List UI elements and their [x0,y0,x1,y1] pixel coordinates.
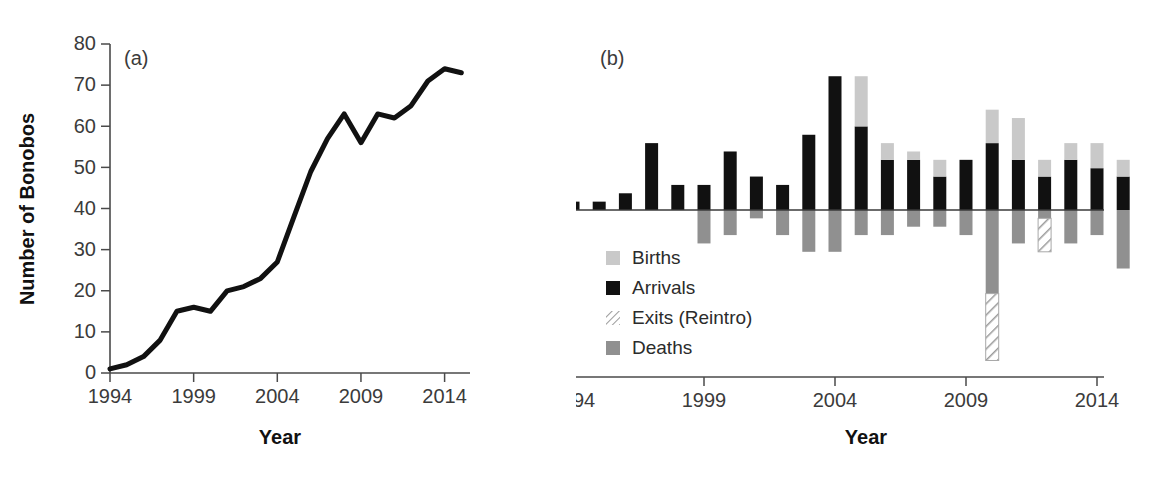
panel-a-y-ticks: 01020304050607080 [74,32,110,383]
bar-segment-deaths [750,210,763,218]
bar-segment-arrivals [986,143,999,210]
bar-segment-arrivals [576,202,580,210]
legend-label-exits: Exits (Reintro) [632,307,752,328]
legend-label-arrivals: Arrivals [632,277,695,298]
bar-segment-arrivals [776,185,789,210]
panel-a-line-chart: (a) Number of Bonobos Year 0102030405060… [0,0,576,477]
bar-segment-births [933,160,946,177]
bar-segment-arrivals [960,160,973,210]
panel-b-x-tick-label: 1999 [682,389,727,411]
bar-segment-deaths [855,210,868,235]
panel-a-svg: (a) Number of Bonobos Year 0102030405060… [0,0,576,477]
bar-segment-deaths [1064,210,1077,243]
bar-segment-deaths [776,210,789,235]
bar-segment-births [986,110,999,143]
bar-segment-arrivals [1091,168,1104,210]
bar-segment-arrivals [1012,160,1025,210]
bar-segment-arrivals [593,202,606,210]
bar-segment-deaths [829,210,842,252]
bar-segment-exits-reintro [1038,218,1051,251]
panel-a-y-axis-title: Number of Bonobos [16,113,38,305]
panel-a-y-tick-label: 30 [74,238,96,260]
panel-a-x-tick-label: 2014 [422,385,467,407]
panel-b-legend: BirthsArrivalsExits (Reintro)Deaths [606,247,752,358]
bar-segment-births [1064,143,1077,160]
bar-segment-arrivals [933,177,946,210]
bar-segment-arrivals [645,143,658,210]
bar-segment-exits-reintro [986,294,999,361]
bar-segment-births [1117,160,1130,177]
bar-segment-births [907,151,920,159]
panel-b-svg: (b) Number of Events Year 20151050−5−10−… [576,0,1152,477]
panel-a-y-tick-label: 50 [74,156,96,178]
bar-segment-arrivals [1038,177,1051,210]
panel-b-x-tick-label: 2009 [944,389,989,411]
panel-a-y-tick-label: 80 [74,32,96,54]
panel-a-x-ticks: 19941999200420092014 [88,373,467,407]
legend-label-deaths: Deaths [632,337,692,358]
bar-segment-arrivals [750,177,763,210]
panel-a-y-tick-label: 0 [85,361,96,383]
bar-segment-deaths [1012,210,1025,243]
legend-swatch-arrivals [606,281,620,295]
panel-b-bar-chart: (b) Number of Events Year 20151050−5−10−… [576,0,1152,477]
panel-b-tag: (b) [600,47,624,69]
bar-segment-arrivals [671,185,684,210]
panel-a-y-tick-label: 40 [74,197,96,219]
bar-segment-deaths [960,210,973,235]
panel-a-y-tick-label: 10 [74,320,96,342]
bar-segment-deaths [1038,210,1051,218]
panel-b-x-ticks: 19941999200420092014 [576,377,1119,411]
panel-a-y-tick-label: 70 [74,73,96,95]
bar-segment-births [855,76,868,126]
bar-segment-births [881,143,894,160]
bar-segment-deaths [881,210,894,235]
panel-b-x-tick-label: 2014 [1075,389,1120,411]
bar-segment-arrivals [619,193,632,210]
bar-segment-deaths [986,210,999,294]
panel-b-x-axis-title: Year [845,426,887,448]
panel-a-x-tick-label: 1994 [88,385,133,407]
legend-swatch-deaths [606,341,620,355]
panel-a-x-tick-label: 2009 [339,385,384,407]
bar-segment-births [1091,143,1104,168]
bar-segment-arrivals [1117,177,1130,210]
figure-root: (a) Number of Bonobos Year 0102030405060… [0,0,1152,477]
bar-segment-deaths [724,210,737,235]
panel-a-y-tick-label: 60 [74,115,96,137]
bar-segment-arrivals [829,76,842,210]
legend-swatch-births [606,251,620,265]
bar-segment-births [1012,118,1025,160]
legend-label-births: Births [632,247,681,268]
bar-segment-deaths [802,210,815,252]
panel-a-x-axis-title: Year [259,426,301,448]
bar-segment-deaths [907,210,920,227]
panel-b-x-tick-label: 2004 [813,389,858,411]
panel-a-tag: (a) [124,47,148,69]
bar-segment-deaths [698,210,711,243]
bar-segment-arrivals [698,185,711,210]
panel-a-data-line [110,69,461,369]
bar-segment-deaths [1091,210,1104,235]
panel-b-x-tick-label: 1994 [576,389,595,411]
bar-segment-arrivals [802,135,815,210]
bar-segment-arrivals [881,160,894,210]
panel-a-x-tick-label: 2004 [255,385,300,407]
bar-segment-deaths [933,210,946,227]
panel-a-y-tick-label: 20 [74,279,96,301]
panel-a-x-tick-label: 1999 [171,385,216,407]
bar-segment-arrivals [724,151,737,210]
bar-segment-deaths [1117,210,1130,269]
legend-swatch-exits [606,311,620,325]
bar-segment-arrivals [907,160,920,210]
bar-segment-arrivals [855,126,868,210]
bar-segment-arrivals [1064,160,1077,210]
bar-segment-births [1038,160,1051,177]
